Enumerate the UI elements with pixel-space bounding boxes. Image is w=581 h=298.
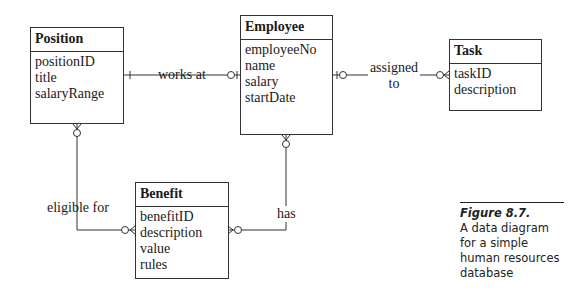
entity-task-attributes: taskID description bbox=[450, 64, 541, 100]
caption-line: human resources bbox=[460, 251, 564, 266]
attribute: startDate bbox=[245, 90, 328, 106]
attribute: description bbox=[454, 82, 537, 98]
entity-benefit-title: Benefit bbox=[136, 183, 228, 207]
entity-employee[interactable]: Employee employeeNo name salary startDat… bbox=[240, 15, 333, 135]
attribute: value bbox=[140, 241, 224, 257]
attribute: salaryRange bbox=[35, 86, 119, 102]
entity-benefit[interactable]: Benefit benefitID description value rule… bbox=[135, 182, 229, 279]
entity-position[interactable]: Position positionID title salaryRange bbox=[30, 27, 124, 124]
entity-benefit-attributes: benefitID description value rules bbox=[136, 207, 228, 275]
relationship-label-line: assigned bbox=[368, 60, 420, 76]
entity-position-title: Position bbox=[31, 28, 123, 52]
relationship-label-line: to bbox=[368, 76, 420, 92]
caption-line: database bbox=[460, 266, 564, 281]
entity-task-title: Task bbox=[450, 40, 541, 64]
entity-employee-attributes: employeeNo name salary startDate bbox=[241, 40, 332, 108]
figure-caption: Figure 8.7. A data diagram for a simple … bbox=[460, 202, 564, 281]
figure-number: Figure 8.7. bbox=[460, 206, 564, 221]
attribute: taskID bbox=[454, 66, 537, 82]
entity-position-attributes: positionID title salaryRange bbox=[31, 52, 123, 104]
caption-line: for a simple bbox=[460, 236, 564, 251]
attribute: name bbox=[245, 58, 328, 74]
entity-task[interactable]: Task taskID description bbox=[449, 39, 542, 111]
attribute: title bbox=[35, 70, 119, 86]
attribute: benefitID bbox=[140, 209, 224, 225]
attribute: positionID bbox=[35, 54, 119, 70]
relationship-has: has bbox=[276, 206, 297, 222]
attribute: description bbox=[140, 225, 224, 241]
attribute: salary bbox=[245, 74, 328, 90]
caption-line: A data diagram bbox=[460, 221, 564, 236]
entity-employee-title: Employee bbox=[241, 16, 332, 40]
attribute: employeeNo bbox=[245, 42, 328, 58]
relationship-works-at: works at bbox=[158, 67, 206, 83]
relationship-eligible-for: eligible for bbox=[47, 200, 109, 216]
attribute: rules bbox=[140, 257, 224, 273]
relationship-assigned-to: assigned to bbox=[368, 60, 420, 92]
caption-rule bbox=[460, 202, 564, 203]
